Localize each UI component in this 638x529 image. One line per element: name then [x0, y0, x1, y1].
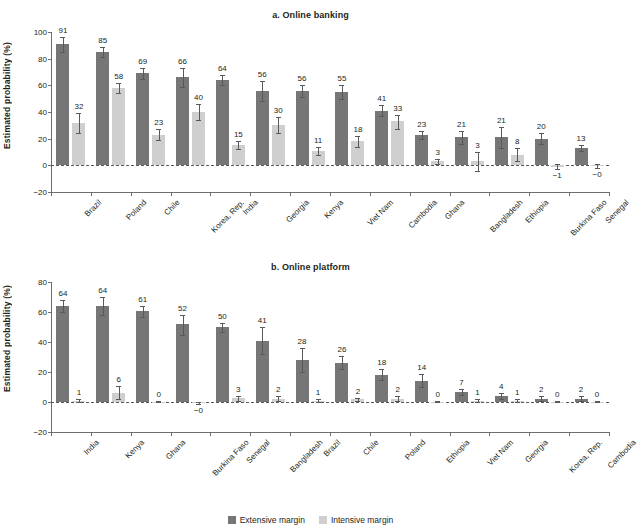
x-axis-category-label: Ghana [443, 198, 466, 221]
error-bar-cap [459, 389, 464, 390]
error-bar-cap [595, 164, 600, 165]
panel-a-y-tick-mark [48, 139, 51, 140]
error-bar-cap [339, 356, 344, 357]
x-axis-category-label: Korea, Rep. [568, 438, 605, 475]
error-bar-cap [76, 402, 81, 403]
bar-value-label: 26 [337, 345, 346, 354]
error-bar-cap [276, 396, 281, 397]
error-bar-cap [140, 317, 145, 318]
bar-value-label: 13 [577, 134, 586, 143]
bar-value-label: 21 [457, 120, 466, 129]
bar-value-label: 3 [236, 385, 240, 394]
panel-b-x-tick-mark [290, 432, 291, 436]
bar-value-label: 21 [497, 116, 506, 125]
error-bar-cap [595, 168, 600, 169]
bar-value-label: 18 [377, 358, 386, 367]
bar-value-label: 15 [234, 130, 243, 139]
panel-a-title: a. Online banking [0, 0, 621, 20]
bar-value-label: 3 [435, 148, 439, 157]
bar-value-label: 7 [459, 378, 463, 387]
error-bar-cap [116, 83, 121, 84]
error-bar-cap [156, 140, 161, 141]
error-bar-cap [355, 136, 360, 137]
x-axis-category-label: India [82, 438, 101, 457]
x-axis-category-label: Chile [162, 198, 181, 217]
panel-b-plot-area: −20020406080641India646Kenya610Ghana52−0… [0, 272, 621, 472]
error-bar-cap [515, 148, 520, 149]
bar-value-label: 3 [475, 141, 479, 150]
error-bar-cap [435, 164, 440, 165]
bar-value-label: 64 [58, 289, 67, 298]
error-bar-cap [100, 315, 105, 316]
bar-value-label: 23 [154, 118, 163, 127]
error-bar-cap [579, 401, 584, 402]
bar-value-label: 69 [138, 57, 147, 66]
bar-a-extensive [56, 44, 69, 165]
bar-value-label: 2 [539, 385, 543, 394]
legend-item-intensive: Intensive margin [319, 515, 393, 525]
bar-value-label: 85 [98, 36, 107, 45]
panel-b-title: b. Online platform [0, 258, 621, 272]
panel-a-y-tick-label: 40 [23, 108, 47, 117]
error-bar-cap [116, 93, 121, 94]
error-bar [262, 81, 263, 101]
error-bar-cap [499, 393, 504, 394]
error-bar [222, 75, 223, 86]
x-axis-category-label: Ghana [164, 438, 187, 461]
error-bar-cap [116, 386, 121, 387]
error-bar [103, 47, 104, 58]
error-bar [302, 348, 303, 372]
error-bar [302, 85, 303, 97]
panel-a-y-tick-mark [48, 59, 51, 60]
error-bar-cap [180, 315, 185, 316]
panel-b-y-tick-mark [48, 282, 51, 283]
error-bar-cap [355, 401, 360, 402]
error-bar [159, 129, 160, 140]
panel-b-y-tick-label: 40 [23, 338, 47, 347]
error-bar-cap [156, 402, 161, 403]
panel-a-x-tick-mark [290, 192, 291, 196]
x-axis-category-label: Viet Nam [366, 198, 396, 228]
error-bar [501, 127, 502, 148]
panel-b-y-tick-mark [48, 372, 51, 373]
panel-b-x-tick-mark [250, 432, 251, 436]
panel-a-y-tick-label: 60 [23, 81, 47, 90]
error-bar-cap [260, 101, 265, 102]
error-bar-cap [220, 85, 225, 86]
panel-b-x-tick-mark [569, 432, 570, 436]
x-axis-category-label: Bangladesh [289, 438, 325, 474]
panel-a-x-tick-mark [450, 192, 451, 196]
panel-b-x-tick-mark [330, 432, 331, 436]
error-bar-cap [276, 117, 281, 118]
bar-value-label: 14 [417, 363, 426, 372]
bar-value-label: 4 [499, 382, 503, 391]
x-axis-category-label: Brazil [83, 198, 104, 219]
panel-a-x-tick-mark [250, 192, 251, 196]
panel-a-x-tick-mark [171, 192, 172, 196]
bar-value-label: 52 [178, 304, 187, 313]
error-bar-cap [60, 37, 65, 38]
error-bar [79, 113, 80, 133]
bar-b-extensive [96, 306, 109, 402]
bar-value-label: −1 [553, 171, 562, 180]
error-bar-cap [339, 99, 344, 100]
error-bar-cap [260, 354, 265, 355]
x-axis-category-label: Chile [361, 438, 380, 457]
panel-a-y-tick-label: 100 [23, 28, 47, 37]
error-bar-cap [459, 144, 464, 145]
legend-swatch-intensive-icon [319, 516, 327, 524]
error-bar-cap [579, 151, 584, 152]
error-bar-cap [196, 404, 201, 405]
error-bar-cap [395, 396, 400, 397]
error-bar-cap [76, 113, 81, 114]
error-bar-cap [339, 369, 344, 370]
panel-a-x-tick-mark [569, 192, 570, 196]
bar-value-label: 28 [298, 337, 307, 346]
error-bar-cap [100, 297, 105, 298]
error-bar-cap [60, 52, 65, 53]
error-bar-cap [379, 116, 384, 117]
x-axis-category-label: Brazil [322, 438, 343, 459]
panel-b-y-tick-mark [48, 342, 51, 343]
error-bar-cap [555, 169, 560, 170]
bar-value-label: 41 [258, 316, 267, 325]
